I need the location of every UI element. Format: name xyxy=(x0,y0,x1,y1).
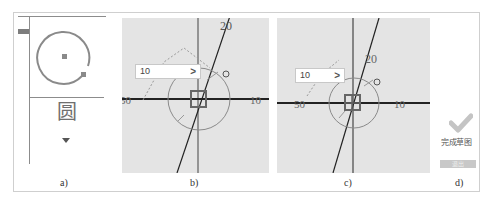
ribbon-top-border xyxy=(18,16,106,17)
ribbon-separator xyxy=(30,97,104,98)
caption-b: b) xyxy=(190,177,198,188)
caption-c: c) xyxy=(344,177,352,188)
circle-tool-button[interactable] xyxy=(36,28,96,92)
checkmark-icon xyxy=(449,113,473,133)
sketch-geometry: 20 50 10 xyxy=(277,18,430,173)
svg-text:50: 50 xyxy=(122,94,132,106)
confirm-chevron-icon[interactable]: > xyxy=(334,69,340,82)
panel-c-sketch-canvas[interactable]: 20 50 10 10 > xyxy=(277,18,430,173)
dimension-value: 10 xyxy=(140,66,150,76)
exit-button[interactable]: 退出 xyxy=(440,160,476,168)
svg-text:10: 10 xyxy=(394,98,406,110)
finish-sketch-label[interactable]: 完成草图 xyxy=(441,136,472,147)
confirm-chevron-icon[interactable]: > xyxy=(190,65,196,78)
svg-text:20: 20 xyxy=(220,19,232,33)
circle-tool-label[interactable]: 圆 xyxy=(57,101,77,123)
sketch-geometry: 20 50 10 xyxy=(122,18,269,173)
dimension-input[interactable]: 10 > xyxy=(295,68,345,83)
triangle-down-icon[interactable] xyxy=(62,138,70,143)
ribbon-left-border xyxy=(29,16,30,164)
circle-icon xyxy=(36,28,96,88)
caption-d: d) xyxy=(455,177,463,188)
ribbon-tab-marker xyxy=(18,29,29,34)
svg-text:20: 20 xyxy=(365,52,377,66)
svg-text:50: 50 xyxy=(294,98,306,110)
svg-text:10: 10 xyxy=(250,94,262,106)
panel-b-sketch-canvas[interactable]: 20 50 10 10 > xyxy=(122,18,269,173)
caption-a: a) xyxy=(60,177,68,188)
dimension-input[interactable]: 10 > xyxy=(135,64,201,79)
finish-sketch-button[interactable] xyxy=(449,113,473,137)
dimension-value: 10 xyxy=(300,70,310,80)
